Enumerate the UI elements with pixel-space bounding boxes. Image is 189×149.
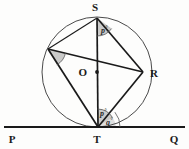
circle-geometry-diagram: S R T O P Q p ° p ° q ° [0, 0, 189, 149]
angle-p-at-t-degree: ° [105, 108, 107, 114]
point-label-o: O [78, 66, 87, 78]
angle-at-s-label: p [100, 26, 105, 35]
point-label-q: Q [170, 133, 179, 145]
angle-p-at-t-label: p [99, 109, 104, 118]
angle-at-s-degree: ° [106, 25, 108, 31]
point-label-p: P [9, 133, 16, 145]
point-label-s: S [92, 1, 98, 13]
chord-r-t [98, 72, 143, 127]
angle-q-at-t-degree: ° [111, 117, 113, 123]
center-dot [95, 70, 99, 74]
point-label-t: T [93, 133, 101, 145]
chord-u-t [48, 49, 98, 127]
point-label-r: R [150, 67, 159, 79]
geometry-canvas: S R T O P Q p ° p ° q ° [0, 0, 189, 149]
angle-q-at-t-label: q [106, 118, 110, 127]
